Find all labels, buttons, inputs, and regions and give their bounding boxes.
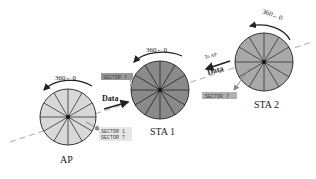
data-arrow-sta2-to-ap: To AP Data: [204, 52, 230, 77]
sta2-node: 360←0 SECTOR 7 STA 2: [202, 8, 293, 110]
ap-sector-label-2: SECTOR 7: [101, 135, 125, 141]
ap-rotation-label: 360←0: [55, 74, 77, 82]
sta2-sector-label: SECTOR 7: [205, 94, 229, 100]
to-ap-label: To AP: [204, 52, 218, 60]
sector-sweep-diagram: 360←0 SECTOR 1 SECTOR 7 AP 360←0: [0, 0, 316, 179]
data-label: Data: [206, 64, 224, 77]
sta1-node: 360←0 SECTOR 7 STA 1: [101, 46, 189, 137]
sta1-sector-label: SECTOR 7: [103, 75, 127, 81]
ap-label: AP: [60, 154, 73, 165]
sta1-rotation-label: 360←0: [146, 46, 168, 54]
sta2-rotation-label: 360←0: [261, 8, 284, 23]
sta2-label: STA 2: [254, 99, 279, 110]
data-label: Data: [102, 94, 118, 103]
ap-node: 360←0 SECTOR 1 SECTOR 7 AP: [40, 74, 132, 165]
sta1-label: STA 1: [150, 126, 175, 137]
